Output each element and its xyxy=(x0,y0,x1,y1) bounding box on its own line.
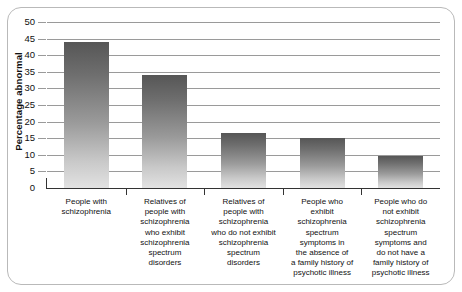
y-axis-tick-mark xyxy=(38,55,46,56)
bar xyxy=(64,42,109,188)
x-axis-category-label: People who donot exhibitschizophreniaspe… xyxy=(363,197,438,279)
x-axis-tick-mark xyxy=(204,188,205,195)
x-axis-tick-mark xyxy=(283,188,284,195)
y-axis-tick-label: 15 xyxy=(11,133,35,143)
y-axis-tick-mark xyxy=(38,105,46,106)
x-axis-category-label: Relatives ofpeople withschizophreniawho … xyxy=(206,197,281,268)
y-axis-tick-mark xyxy=(38,88,46,89)
y-axis-tick-label: 45 xyxy=(11,34,35,44)
x-axis-category-labels: People withschizophreniaRelatives ofpeop… xyxy=(47,197,440,285)
y-axis-tick-mark xyxy=(38,138,46,139)
gridline xyxy=(47,39,440,40)
y-axis-tick-label: 5 xyxy=(11,166,35,176)
bar xyxy=(378,156,423,189)
y-axis-tick-mark xyxy=(38,171,46,172)
y-axis-tick-mark xyxy=(38,72,46,73)
y-axis-tick-label: 25 xyxy=(11,100,35,110)
y-axis-tick-labels: 50454035302520151050 xyxy=(11,22,35,188)
bar xyxy=(300,138,345,188)
plot-area xyxy=(47,22,440,188)
y-axis-tick-label: 35 xyxy=(11,67,35,77)
x-axis-tick-mark xyxy=(126,188,127,195)
y-axis-tick-label: 10 xyxy=(11,150,35,160)
y-axis-tick-label: 0 xyxy=(11,183,35,193)
chart-figure: Percentage abnormal 50454035302520151050… xyxy=(0,0,462,292)
bar xyxy=(142,75,187,188)
x-axis-category-label: People whoexhibitschizophreniaspectrumsy… xyxy=(285,197,360,279)
x-axis-category-label: Relatives ofpeople withschizophreniawho … xyxy=(128,197,203,268)
y-axis-tick-mark xyxy=(38,22,46,23)
x-axis-category-label: People withschizophrenia xyxy=(49,197,124,217)
x-axis-tick-mark xyxy=(361,188,362,195)
gridline xyxy=(47,22,440,23)
y-axis-tick-mark xyxy=(38,39,46,40)
y-axis-tick-label: 40 xyxy=(11,50,35,60)
y-axis-tick-label: 50 xyxy=(11,17,35,27)
y-axis-tick-mark xyxy=(38,155,46,156)
y-axis-tick-label: 30 xyxy=(11,83,35,93)
bar xyxy=(221,133,266,188)
y-axis-tick-label: 20 xyxy=(11,117,35,127)
x-axis-line xyxy=(47,188,440,189)
y-axis-tick-mark xyxy=(38,122,46,123)
